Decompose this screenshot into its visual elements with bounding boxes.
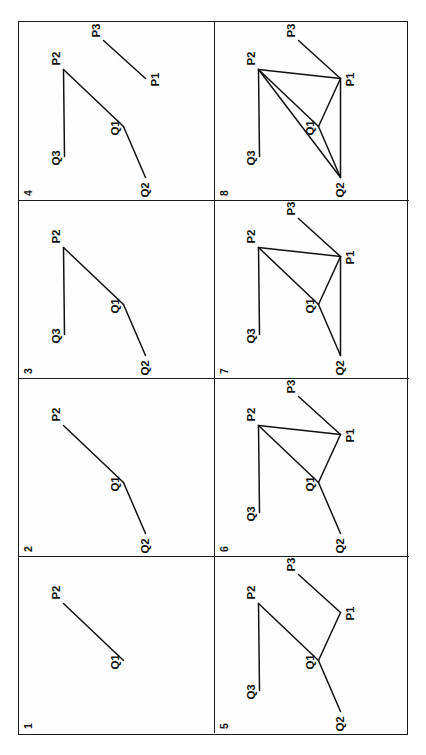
- node-label-Q1: Q1: [305, 299, 317, 314]
- node-label-Q2: Q2: [335, 716, 347, 731]
- edge-Q2-Q1: [319, 305, 341, 356]
- edge-Q2-Q1: [123, 483, 145, 534]
- panel-number-5: 5: [219, 723, 230, 729]
- edge-Q1-P2: [259, 603, 319, 660]
- edge-Q1-P2: [259, 69, 319, 126]
- edge-Q1-P1: [319, 612, 341, 660]
- graph-edges: [19, 22, 214, 200]
- edge-P1-P2: [259, 69, 341, 78]
- edge-Q1-P2: [63, 248, 123, 305]
- panel-number-1: 1: [23, 723, 34, 729]
- node-label-P2: P2: [50, 408, 62, 422]
- node-label-Q1: Q1: [305, 477, 317, 492]
- edge-Q3-P2: [63, 248, 64, 335]
- panel-5: Q1Q2Q3P1P2P35: [214, 556, 409, 733]
- node-label-Q1: Q1: [109, 299, 121, 314]
- graph-edges: [19, 201, 214, 379]
- node-label-P2: P2: [246, 230, 258, 244]
- graph-edges: [19, 379, 214, 557]
- graph-canvas: Q1Q2P2: [19, 379, 214, 557]
- panel-canvas-8: Q1Q2Q3P1P2P3: [215, 22, 410, 200]
- panel-3: Q1Q2Q3P23: [19, 200, 214, 378]
- panel-number-8: 8: [219, 190, 230, 196]
- edge-P1-P3: [299, 40, 341, 78]
- graph-edges: [215, 22, 410, 200]
- panel-1: Q1P21: [19, 556, 214, 733]
- edge-Q2-Q1: [123, 305, 145, 356]
- graph-edges: [215, 201, 410, 379]
- panel-7: Q1Q2Q3P1P2P37: [214, 200, 409, 378]
- edge-P1-P3: [299, 219, 341, 257]
- edge-Q1-P1: [319, 257, 341, 305]
- node-label-Q2: Q2: [139, 539, 151, 554]
- edge-Q1-P2: [259, 426, 319, 483]
- graph-canvas: Q1Q2Q3P2: [19, 201, 214, 379]
- edge-Q1-P2: [63, 426, 123, 483]
- node-label-P2: P2: [50, 585, 62, 599]
- panel-canvas-2: Q1Q2P2: [19, 379, 214, 557]
- node-label-P3: P3: [286, 202, 298, 216]
- node-label-P1: P1: [149, 72, 161, 86]
- graph-edges: [215, 379, 410, 557]
- node-label-Q2: Q2: [139, 361, 151, 376]
- edge-Q3-P2: [259, 248, 260, 335]
- graph-canvas: Q1Q2Q3P1P2P3: [19, 22, 214, 200]
- graph-canvas: Q1Q2Q3P1P2P3: [215, 22, 410, 200]
- panel-6: Q1Q2Q3P1P2P36: [214, 378, 409, 556]
- edge-Q2-Q1: [319, 483, 341, 534]
- node-label-Q2: Q2: [335, 539, 347, 554]
- panel-canvas-4: Q1Q2Q3P1P2P3: [19, 22, 214, 200]
- node-label-Q3: Q3: [246, 329, 258, 344]
- node-label-Q1: Q1: [305, 120, 317, 135]
- panel-number-7: 7: [219, 368, 230, 374]
- graph-edges: [19, 556, 214, 733]
- edge-P1-P3: [299, 574, 341, 612]
- edge-P1-P3: [103, 40, 145, 78]
- graph-edges: [215, 556, 410, 733]
- node-label-P3: P3: [286, 23, 298, 37]
- node-label-Q2: Q2: [335, 182, 347, 197]
- figure-stage: Q1P21Q1Q2P22Q1Q2Q3P23Q1Q2Q3P1P2P34Q1Q2Q3…: [0, 0, 426, 755]
- panel-number-6: 6: [219, 546, 230, 552]
- panel-canvas-5: Q1Q2Q3P1P2P3: [215, 556, 410, 733]
- node-label-Q1: Q1: [109, 477, 121, 492]
- edge-Q2-P2: [259, 69, 341, 177]
- node-label-P3: P3: [286, 557, 298, 571]
- graph-canvas: Q1Q2Q3P1P2P3: [215, 379, 410, 557]
- node-label-Q2: Q2: [139, 182, 151, 197]
- node-label-P2: P2: [246, 585, 258, 599]
- edge-Q1-P2: [63, 69, 123, 126]
- panel-canvas-6: Q1Q2Q3P1P2P3: [215, 379, 410, 557]
- node-label-P2: P2: [50, 51, 62, 65]
- edge-Q1-P1: [319, 435, 341, 483]
- edge-Q1-P2: [63, 603, 123, 660]
- panel-number-4: 4: [23, 190, 34, 196]
- panel-8: Q1Q2Q3P1P2P38: [214, 22, 409, 200]
- panel-canvas-1: Q1P2: [19, 556, 214, 733]
- node-label-P1: P1: [345, 606, 357, 620]
- node-label-Q3: Q3: [246, 684, 258, 699]
- node-label-Q1: Q1: [305, 654, 317, 669]
- edge-Q2-Q1: [319, 660, 341, 711]
- panel-2: Q1Q2P22: [19, 378, 214, 556]
- edge-Q3-P2: [63, 69, 64, 156]
- edge-Q1-P1: [319, 78, 341, 126]
- graph-canvas: Q1Q2Q3P1P2P3: [215, 201, 410, 379]
- panel-number-2: 2: [23, 546, 34, 552]
- node-label-P3: P3: [90, 23, 102, 37]
- node-label-Q3: Q3: [246, 507, 258, 522]
- edge-P1-P2: [259, 248, 341, 257]
- node-label-P1: P1: [345, 251, 357, 265]
- edge-Q3-P2: [259, 69, 260, 156]
- node-label-Q1: Q1: [109, 120, 121, 135]
- node-label-Q3: Q3: [50, 150, 62, 165]
- panel-canvas-3: Q1Q2Q3P2: [19, 201, 214, 379]
- node-label-Q1: Q1: [109, 654, 121, 669]
- figure-outer-frame: Q1P21Q1Q2P22Q1Q2Q3P23Q1Q2Q3P1P2P34Q1Q2Q3…: [18, 21, 408, 735]
- edge-Q3-P2: [259, 603, 260, 690]
- node-label-Q3: Q3: [50, 329, 62, 344]
- node-label-P2: P2: [246, 51, 258, 65]
- node-label-P2: P2: [50, 230, 62, 244]
- panel-number-3: 3: [23, 368, 34, 374]
- panel-4: Q1Q2Q3P1P2P34: [19, 22, 214, 200]
